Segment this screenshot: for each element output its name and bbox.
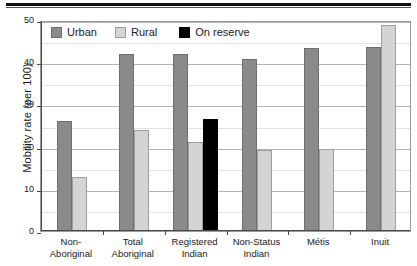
x-category-label-line: Inuit <box>349 236 411 248</box>
x-category-label-line: Total <box>102 236 164 248</box>
x-category-label-line: Indian <box>226 248 288 260</box>
legend-item-rural[interactable]: Rural <box>115 26 157 38</box>
x-tick-mark <box>227 231 228 235</box>
x-tick-mark <box>165 231 166 235</box>
x-category-label: Non-Aboriginal <box>40 236 102 259</box>
x-tick-mark <box>103 231 104 235</box>
header-rule <box>6 3 411 6</box>
legend-swatch-icon <box>179 27 190 38</box>
legend-swatch-icon <box>51 27 62 38</box>
chart-figure: Mobility rate (per 100) 01020304050 Non-… <box>0 0 417 266</box>
y-tick-label: 10 <box>8 184 34 194</box>
y-tick-label: 20 <box>8 142 34 152</box>
x-category-label-line: Non-Status <box>226 236 288 248</box>
header-rule-thin <box>6 7 411 8</box>
bars-layer <box>41 22 410 231</box>
x-category-label-line: Indian <box>164 248 226 260</box>
x-category-label-line: Métis <box>287 236 349 248</box>
legend-swatch-icon <box>115 27 126 38</box>
y-tick-label: 30 <box>8 99 34 109</box>
x-axis-category-labels: Non-AboriginalTotalAboriginalRegisteredI… <box>40 236 411 264</box>
x-category-label: Non-StatusIndian <box>226 236 288 259</box>
legend-item-urban[interactable]: Urban <box>51 26 97 38</box>
plot-area <box>40 21 411 232</box>
x-category-label-line: Aboriginal <box>40 248 102 260</box>
bar-group <box>41 22 412 231</box>
legend-label: Rural <box>131 26 157 38</box>
legend-label: On reserve <box>195 26 249 38</box>
y-tick-label: 0 <box>8 226 34 236</box>
y-tick-label: 40 <box>8 57 34 67</box>
x-axis-line <box>41 230 410 231</box>
y-tick-label: 50 <box>8 15 34 25</box>
x-tick-mark <box>350 231 351 235</box>
x-category-label-line: Non- <box>40 236 102 248</box>
legend-item-onres[interactable]: On reserve <box>179 26 249 38</box>
x-category-label: Inuit <box>349 236 411 248</box>
x-category-label-line: Aboriginal <box>102 248 164 260</box>
x-category-label: RegisteredIndian <box>164 236 226 259</box>
x-category-label: Métis <box>287 236 349 248</box>
x-category-label-line: Registered <box>164 236 226 248</box>
bar-rural <box>381 25 396 231</box>
y-tick-mark <box>37 233 41 234</box>
chart-legend: UrbanRuralOn reserve <box>51 26 250 38</box>
bar-urban <box>366 47 381 231</box>
x-tick-mark <box>288 231 289 235</box>
legend-label: Urban <box>67 26 97 38</box>
x-category-label: TotalAboriginal <box>102 236 164 259</box>
y-axis-line <box>41 22 42 231</box>
